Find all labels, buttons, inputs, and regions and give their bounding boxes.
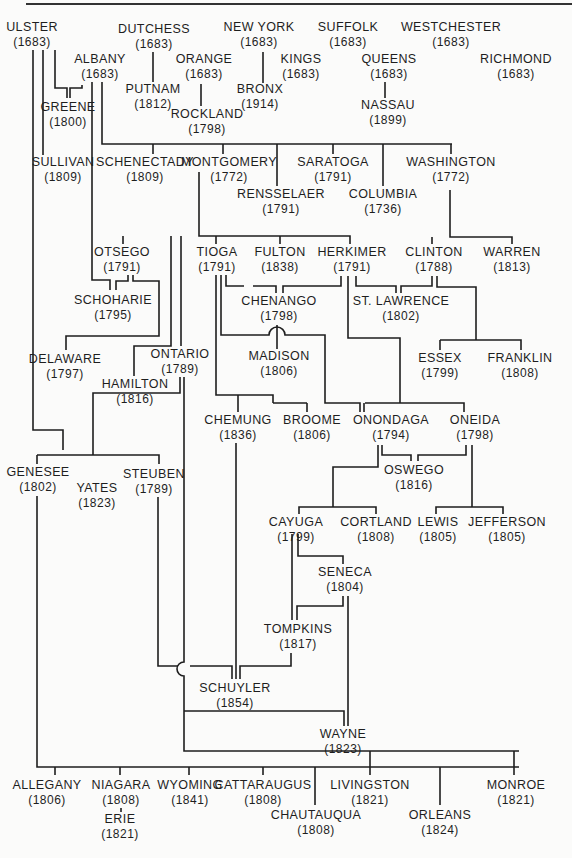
county-year: (1804) xyxy=(318,580,372,595)
county-year: (1806) xyxy=(12,793,81,808)
county-node-lewis: LEWIS(1805) xyxy=(418,515,459,545)
county-node-montgomery: MONTGOMERY(1772) xyxy=(181,155,277,185)
county-name: OSWEGO xyxy=(384,463,444,478)
county-node-hamilton: HAMILTON(1816) xyxy=(102,377,169,407)
county-node-genesee: GENESEE(1802) xyxy=(6,465,69,495)
county-node-newyork: NEW YORK(1683) xyxy=(223,20,294,50)
county-name: WYOMING xyxy=(157,778,222,793)
county-year: (1683) xyxy=(281,67,322,82)
county-year: (1805) xyxy=(468,530,546,545)
county-year: (1798) xyxy=(241,309,316,324)
county-year: (1797) xyxy=(29,367,101,382)
county-node-fulton: FULTON(1838) xyxy=(254,245,305,275)
county-name: SARATOGA xyxy=(297,155,369,170)
county-node-onondaga: ONONDAGA(1794) xyxy=(353,413,429,443)
county-name: ONTARIO xyxy=(151,347,210,362)
county-node-nassau: NASSAU(1899) xyxy=(361,98,415,128)
county-node-warren: WARREN(1813) xyxy=(483,245,541,275)
county-node-chautauqua: CHAUTAUQUA(1808) xyxy=(271,808,362,838)
county-node-stlawrence: ST. LAWRENCE(1802) xyxy=(353,294,450,324)
county-year: (1802) xyxy=(353,309,450,324)
county-node-jefferson: JEFFERSON(1805) xyxy=(468,515,546,545)
county-node-allegany: ALLEGANY(1806) xyxy=(12,778,81,808)
county-year: (1854) xyxy=(199,696,270,711)
county-name: SULLIVAN xyxy=(32,155,95,170)
county-name: OTSEGO xyxy=(94,245,150,260)
county-node-ontario: ONTARIO(1789) xyxy=(151,347,210,377)
county-year: (1802) xyxy=(6,480,69,495)
county-node-greene: GREENE(1800) xyxy=(40,100,95,130)
county-node-monroe: MONROE(1821) xyxy=(487,778,546,808)
county-node-livingston: LIVINGSTON(1821) xyxy=(330,778,409,808)
county-name: ULSTER xyxy=(6,20,58,35)
county-node-oswego: OSWEGO(1816) xyxy=(384,463,444,493)
county-name: MONTGOMERY xyxy=(181,155,277,170)
county-node-suffolk: SUFFOLK(1683) xyxy=(318,20,378,50)
county-node-cortland: CORTLAND(1808) xyxy=(340,515,412,545)
county-year: (1824) xyxy=(409,823,472,838)
county-year: (1800) xyxy=(40,115,95,130)
county-name: WASHINGTON xyxy=(406,155,495,170)
county-name: SCHUYLER xyxy=(199,681,270,696)
county-name: BROOME xyxy=(283,413,341,428)
county-name: ALBANY xyxy=(74,52,126,67)
county-year: (1788) xyxy=(405,260,462,275)
county-name: PUTNAM xyxy=(125,82,180,97)
county-year: (1806) xyxy=(283,428,341,443)
county-node-tioga: TIOGA(1791) xyxy=(197,245,238,275)
county-node-herkimer: HERKIMER(1791) xyxy=(317,245,386,275)
county-name: GREENE xyxy=(40,100,95,115)
county-node-broome: BROOME(1806) xyxy=(283,413,341,443)
county-name: ORLEANS xyxy=(409,808,472,823)
county-year: (1736) xyxy=(349,202,418,217)
county-node-columbia: COLUMBIA(1736) xyxy=(349,187,418,217)
county-year: (1683) xyxy=(118,37,190,52)
county-node-otsego: OTSEGO(1791) xyxy=(94,245,150,275)
county-year: (1816) xyxy=(102,392,169,407)
county-year: (1791) xyxy=(297,170,369,185)
county-year: (1808) xyxy=(91,793,150,808)
county-name: ESSEX xyxy=(418,351,462,366)
county-node-ulster: ULSTER(1683) xyxy=(6,20,58,50)
county-name: TOMPKINS xyxy=(264,622,332,637)
county-node-cattaraugus: CATTARAUGUS(1808) xyxy=(215,778,312,808)
county-name: CHEMUNG xyxy=(204,413,271,428)
county-name: CAYUGA xyxy=(269,515,323,530)
county-node-cayuga: CAYUGA(1799) xyxy=(269,515,323,545)
county-name: HAMILTON xyxy=(102,377,169,392)
county-name: SCHOHARIE xyxy=(74,293,152,308)
county-node-madison: MADISON(1806) xyxy=(248,349,309,379)
county-name: COLUMBIA xyxy=(349,187,418,202)
county-name: LEWIS xyxy=(418,515,459,530)
county-node-wayne: WAYNE(1823) xyxy=(320,727,366,757)
county-year: (1808) xyxy=(340,530,412,545)
county-node-washington: WASHINGTON(1772) xyxy=(406,155,495,185)
county-node-rockland: ROCKLAND(1798) xyxy=(171,107,244,137)
county-name: CLINTON xyxy=(405,245,462,260)
county-name: ROCKLAND xyxy=(171,107,244,122)
county-year: (1683) xyxy=(318,35,378,50)
county-year: (1789) xyxy=(123,482,185,497)
county-year: (1791) xyxy=(197,260,238,275)
county-year: (1809) xyxy=(96,170,194,185)
county-year: (1809) xyxy=(32,170,95,185)
county-year: (1816) xyxy=(384,478,444,493)
county-year: (1791) xyxy=(94,260,150,275)
county-node-dutchess: DUTCHESS(1683) xyxy=(118,22,190,52)
county-name: ST. LAWRENCE xyxy=(353,294,450,309)
county-year: (1683) xyxy=(401,35,501,50)
county-year: (1836) xyxy=(204,428,271,443)
county-year: (1914) xyxy=(237,97,283,112)
county-year: (1806) xyxy=(248,364,309,379)
county-node-saratoga: SARATOGA(1791) xyxy=(297,155,369,185)
county-node-chemung: CHEMUNG(1836) xyxy=(204,413,271,443)
county-name: KINGS xyxy=(281,52,322,67)
county-name: DUTCHESS xyxy=(118,22,190,37)
county-name: ONEIDA xyxy=(450,413,500,428)
county-name: BRONX xyxy=(237,82,283,97)
county-name: CATTARAUGUS xyxy=(215,778,312,793)
county-node-chenango: CHENANGO(1798) xyxy=(241,294,316,324)
county-node-essex: ESSEX(1799) xyxy=(418,351,462,381)
county-node-wyoming: WYOMING(1841) xyxy=(157,778,222,808)
county-name: CHAUTAUQUA xyxy=(271,808,362,823)
